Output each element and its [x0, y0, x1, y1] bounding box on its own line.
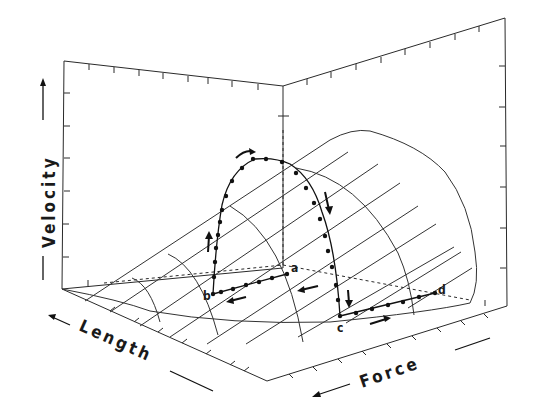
- arrow-left-icon: [48, 314, 56, 320]
- ticks-right-vertical: [499, 66, 506, 268]
- force-length-velocity-diagram: a b c d Velocity Length Force: [0, 0, 535, 413]
- force-axis-label: Force: [357, 353, 422, 392]
- point-label-b: b: [203, 289, 211, 303]
- point-label-d: d: [438, 283, 446, 297]
- floor-back-left: [62, 268, 283, 289]
- ticks-left-vertical: [63, 93, 70, 257]
- arrow-left-icon: [297, 286, 318, 293]
- point-label-c: c: [337, 321, 343, 335]
- surface: [62, 130, 477, 344]
- point-label-a: a: [291, 261, 298, 275]
- trajectory-dots: [211, 157, 437, 318]
- back-left-wall: [62, 61, 283, 289]
- ticks-top-right: [307, 26, 479, 85]
- arrow-curved-icon: [236, 148, 256, 158]
- axis-velocity: Velocity: [39, 78, 59, 280]
- right-wall: [283, 18, 507, 306]
- arrow-up-icon: [205, 231, 213, 252]
- axis-length: Length: [48, 314, 213, 391]
- arrow-left-icon: [312, 391, 321, 397]
- velocity-axis-label: Velocity: [39, 155, 59, 248]
- ticks-top-left: [89, 64, 258, 90]
- arrow-up-icon: [40, 78, 46, 86]
- arrow-down-icon: [345, 290, 353, 308]
- axis-force: Force: [312, 338, 490, 397]
